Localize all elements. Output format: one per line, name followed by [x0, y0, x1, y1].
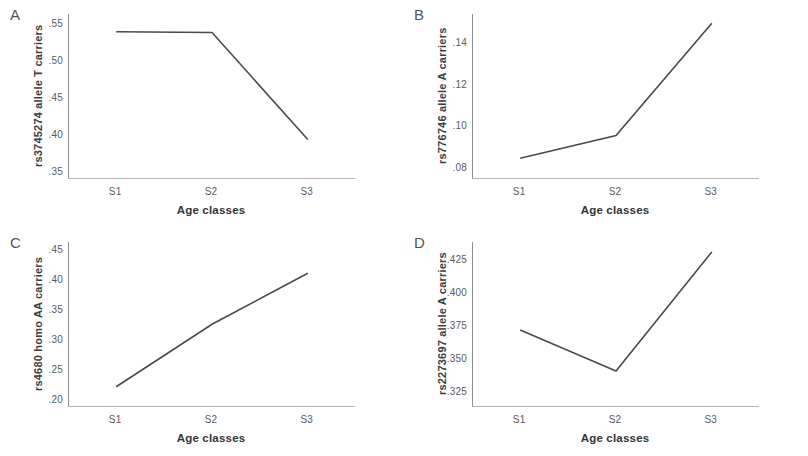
- panel-a-x-tick-label: S3: [300, 186, 313, 197]
- panel-c-x-ticks: S1S2S3: [68, 414, 354, 428]
- panel-c-x-axis-title: Age classes: [177, 432, 246, 444]
- panel-c-x-tick-label: S3: [300, 414, 313, 425]
- panel-c-y-tick-label: .45: [48, 244, 63, 255]
- panel-d-data-line: [520, 252, 712, 371]
- panel-b-y-tick-label: .14: [452, 37, 467, 48]
- panel-d-y-tick-label: .425: [447, 253, 467, 264]
- panel-b-y-tick-label: .08: [452, 161, 467, 172]
- panel-d-y-tick-label: .400: [447, 286, 467, 297]
- panel-d-y-ticks: .425.400.375.350.325: [433, 242, 467, 406]
- panel-a-series-svg: [69, 14, 355, 178]
- panel-b-plot-area: [472, 14, 759, 179]
- panel-d-x-ticks: S1S2S3: [472, 414, 758, 428]
- panel-c-y-tick-label: .20: [48, 394, 63, 405]
- panel-a-x-tick-label: S1: [109, 186, 122, 197]
- panel-b-x-tick-label: S2: [609, 186, 622, 197]
- panel-d-y-tick-label: .350: [447, 352, 467, 363]
- panel-c-y-tick-label: .25: [48, 364, 63, 375]
- panel-b: B rs776746 allele A carriers .14.12.10.0…: [404, 0, 808, 228]
- panel-a-y-ticks: .55.50.45.40.35: [29, 14, 63, 178]
- panel-c-y-tick-label: .40: [48, 274, 63, 285]
- panel-a-y-tick-label: .50: [48, 54, 63, 65]
- panel-d-x-axis-title: Age classes: [581, 432, 650, 444]
- panel-a-plot-area: [68, 14, 355, 179]
- panel-b-x-axis-title: Age classes: [581, 204, 650, 216]
- panel-a-y-tick-label: .55: [48, 17, 63, 28]
- panel-b-series-svg: [473, 14, 759, 178]
- panel-a-x-ticks: S1S2S3: [68, 186, 354, 200]
- panel-a-x-tick-label: S2: [205, 186, 218, 197]
- panel-letter-a: A: [10, 6, 21, 23]
- panel-d-x-tick-label: S2: [609, 414, 622, 425]
- panel-d-y-tick-label: .325: [447, 385, 467, 396]
- panel-d-x-tick-label: S1: [513, 414, 526, 425]
- panel-a-x-axis-title: Age classes: [177, 204, 246, 216]
- panel-c: C rs4680 homo AA carriers .45.40.35.30.2…: [0, 228, 404, 456]
- panel-letter-b: B: [414, 6, 425, 23]
- panel-a-y-tick-label: .40: [48, 128, 63, 139]
- panel-d: D rs2273697 allele A carriers .425.400.3…: [404, 228, 808, 456]
- panel-b-y-ticks: .14.12.10.08: [433, 14, 467, 178]
- panel-a-y-tick-label: .35: [48, 165, 63, 176]
- panel-c-y-tick-label: .30: [48, 334, 63, 345]
- panel-d-x-tick-label: S3: [704, 414, 717, 425]
- panel-b-x-tick-label: S1: [513, 186, 526, 197]
- panel-a-y-tick-label: .45: [48, 91, 63, 102]
- panel-c-y-ticks: .45.40.35.30.25.20: [29, 242, 63, 406]
- panel-d-plot-area: [472, 242, 759, 407]
- panel-letter-c: C: [10, 234, 21, 251]
- panel-d-series-svg: [473, 242, 759, 406]
- figure-grid: A rs3745274 allele T carriers .55.50.45.…: [0, 0, 808, 456]
- panel-c-y-tick-label: .35: [48, 304, 63, 315]
- panel-a: A rs3745274 allele T carriers .55.50.45.…: [0, 0, 404, 228]
- panel-c-x-tick-label: S1: [109, 414, 122, 425]
- panel-c-x-tick-label: S2: [205, 414, 218, 425]
- panel-b-y-tick-label: .12: [452, 78, 467, 89]
- panel-letter-d: D: [414, 234, 425, 251]
- panel-b-y-tick-label: .10: [452, 120, 467, 131]
- panel-b-x-tick-label: S3: [704, 186, 717, 197]
- panel-c-data-line: [116, 273, 308, 387]
- panel-c-plot-area: [68, 242, 355, 407]
- panel-c-series-svg: [69, 242, 355, 406]
- panel-d-y-tick-label: .375: [447, 319, 467, 330]
- panel-b-data-line: [520, 23, 712, 158]
- panel-b-x-ticks: S1S2S3: [472, 186, 758, 200]
- panel-a-data-line: [116, 32, 308, 140]
